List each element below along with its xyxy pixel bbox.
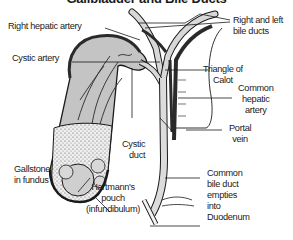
label-right-hepatic-artery: Right hepatic artery: [8, 21, 82, 32]
label-common-hepatic-artery: Common hepatic artery: [238, 83, 273, 116]
label-cystic-duct: Cystic duct: [122, 139, 145, 161]
gallbladder: [50, 36, 147, 202]
label-gallstone-in-fundus: Gallstone in fundus: [14, 164, 50, 186]
label-triangle-of-calot: Triangle of Calot: [203, 64, 243, 86]
label-cystic-artery: Cystic artery: [12, 53, 59, 64]
label-common-bile-duct: Common bile duct empties into Duodenum: [207, 168, 250, 223]
label-hartmanns-pouch: Hartmann's pouch (infundibulum): [83, 182, 143, 215]
label-right-left-bile-ducts: Right and left bile ducts: [233, 15, 283, 37]
label-portal-vein: Portal vein: [229, 123, 251, 145]
